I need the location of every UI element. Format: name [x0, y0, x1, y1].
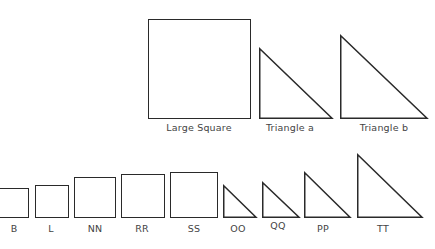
square-b-label: B — [11, 223, 18, 234]
triangle-pp — [304, 172, 351, 218]
square-l-label: L — [48, 223, 54, 234]
large-square — [148, 19, 251, 119]
triangle-a-label: Triangle a — [266, 122, 314, 133]
triangle-qq — [262, 182, 300, 218]
square-ss — [170, 172, 218, 218]
square-nn-label: NN — [88, 223, 103, 234]
triangle-tt-label: TT — [377, 223, 389, 234]
triangle-pp-label: PP — [317, 223, 329, 234]
large-square-label: Large Square — [166, 122, 232, 133]
square-nn — [74, 177, 116, 218]
triangle-a — [259, 48, 333, 119]
square-rr-label: RR — [135, 223, 149, 234]
triangle-qq-label: QQ — [270, 220, 285, 231]
triangle-b — [340, 35, 428, 119]
triangle-tt — [357, 154, 423, 218]
triangle-oo — [223, 185, 257, 218]
square-b — [0, 188, 29, 218]
square-ss-label: SS — [188, 223, 200, 234]
square-rr — [121, 174, 165, 218]
square-l — [35, 185, 69, 218]
triangle-b-label: Triangle b — [360, 122, 408, 133]
triangle-oo-label: OO — [230, 223, 245, 234]
